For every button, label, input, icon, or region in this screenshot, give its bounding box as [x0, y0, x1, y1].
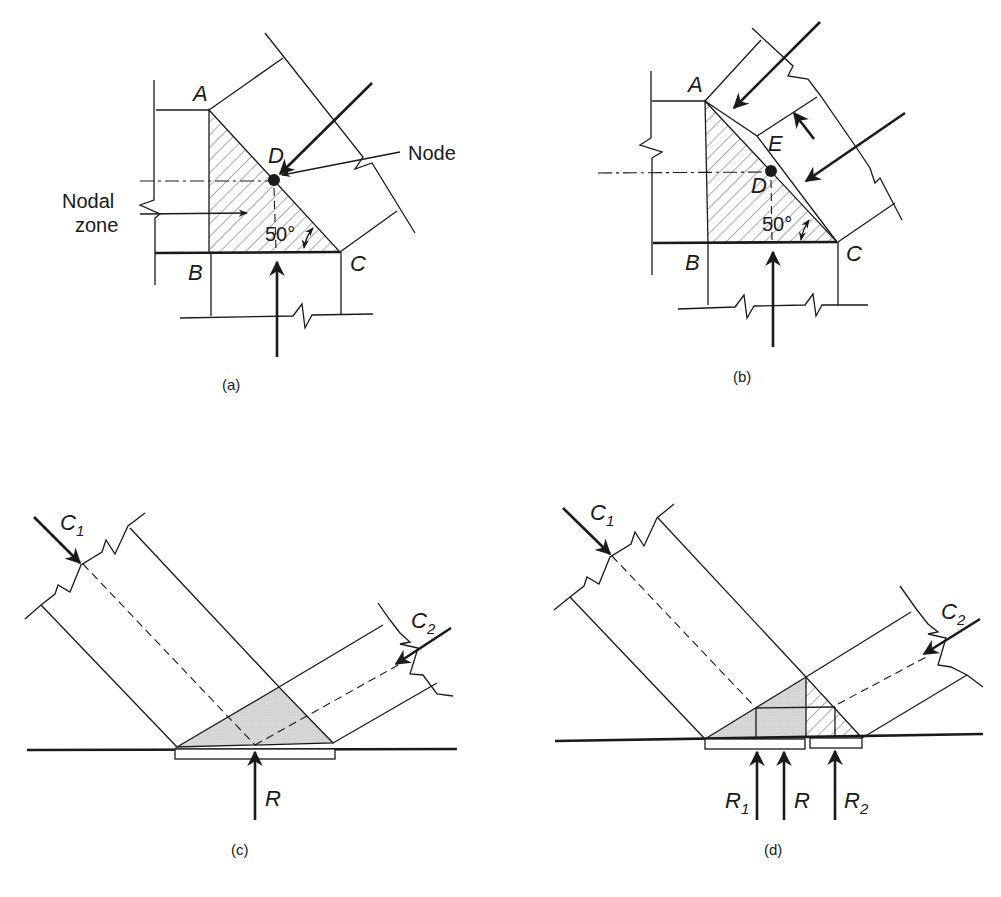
- label-A: A: [191, 81, 208, 106]
- strut-force-arrow-2: [806, 113, 905, 181]
- caption-b: (b): [733, 368, 751, 385]
- bearing-plate-r2: [810, 738, 862, 748]
- panel-b: A B C D E 50° (b): [598, 22, 905, 385]
- nodal-zone-shaded: [177, 687, 333, 747]
- strut-force-arrow-1: [734, 22, 820, 108]
- angle-label: 50°: [265, 223, 295, 245]
- node-point-icon: [268, 174, 280, 186]
- nodal-zone-label-line1: Nodal: [62, 190, 114, 212]
- label-A: A: [686, 72, 703, 97]
- label-C1: C1: [60, 510, 84, 539]
- label-R1: R1: [725, 788, 749, 817]
- label-E: E: [768, 131, 783, 156]
- label-B: B: [188, 260, 203, 285]
- label-R: R: [794, 788, 810, 813]
- panel-c: C1 C2 R (c): [25, 510, 457, 858]
- label-R2: R2: [844, 788, 869, 817]
- caption-a: (a): [222, 376, 240, 393]
- label-C: C: [350, 251, 366, 276]
- force-c2-arrow: [924, 619, 980, 654]
- label-C2: C2: [411, 608, 436, 637]
- caption-d: (d): [764, 841, 782, 858]
- panel-a: A B C D Node Nodal zone 50° (a): [62, 33, 456, 393]
- bearing-plate-r1: [705, 739, 805, 749]
- panel-d: C1 C2 R1 R R2 (d): [554, 500, 983, 858]
- label-R: R: [265, 786, 281, 811]
- label-C: C: [846, 241, 862, 266]
- node-label: Node: [408, 142, 456, 164]
- label-B: B: [685, 250, 700, 275]
- label-C2: C2: [941, 599, 966, 628]
- label-C1: C1: [590, 500, 614, 529]
- caption-c: (c): [231, 841, 249, 858]
- label-D: D: [751, 173, 767, 198]
- label-D: D: [268, 143, 284, 168]
- angle-label: 50°: [762, 213, 792, 235]
- nodal-zone-label-line2: zone: [75, 214, 118, 236]
- strut-and-tie-node-figure: A B C D Node Nodal zone 50° (a) A B: [0, 0, 1001, 897]
- force-c2-arrow: [396, 628, 451, 664]
- small-force-arrow: [794, 113, 814, 139]
